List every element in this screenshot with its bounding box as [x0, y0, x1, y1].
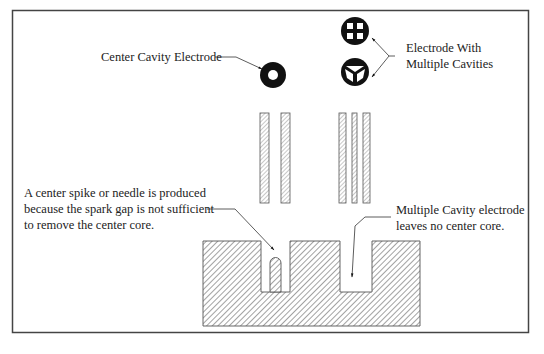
multi-cavity-electrode-section [339, 113, 370, 203]
multi-cavity-leader-bottom [372, 56, 389, 77]
no-core-label-line1: Multiple Cavity electrode [396, 203, 524, 217]
center-spike [270, 258, 281, 293]
center-cavity-electrode-icon [260, 62, 286, 88]
multi-cavity-label-line2: Multiple Cavities [406, 57, 493, 71]
tri-cavity-electrode-icon [341, 58, 369, 86]
center-cavity-label: Center Cavity Electrode [101, 50, 222, 64]
workpiece-section [203, 241, 420, 326]
multi-cavity-leader-top [372, 38, 395, 56]
spike-label-line3: to remove the center core. [24, 218, 154, 232]
no-core-label-line2: leaves no center core. [396, 219, 504, 233]
spike-label-line2: because the spark gap is not sufficient [24, 202, 214, 216]
spike-label-line1: A center spike or needle is produced [24, 186, 206, 200]
multi-cavity-label-line1: Electrode With [406, 41, 481, 55]
cross-cavity-electrode-icon [341, 17, 369, 45]
single-cavity-electrode-section [260, 113, 290, 203]
center-cavity-leader [215, 57, 262, 69]
edm-electrode-diagram: Center Cavity Electrode Electrode With M… [0, 0, 544, 354]
